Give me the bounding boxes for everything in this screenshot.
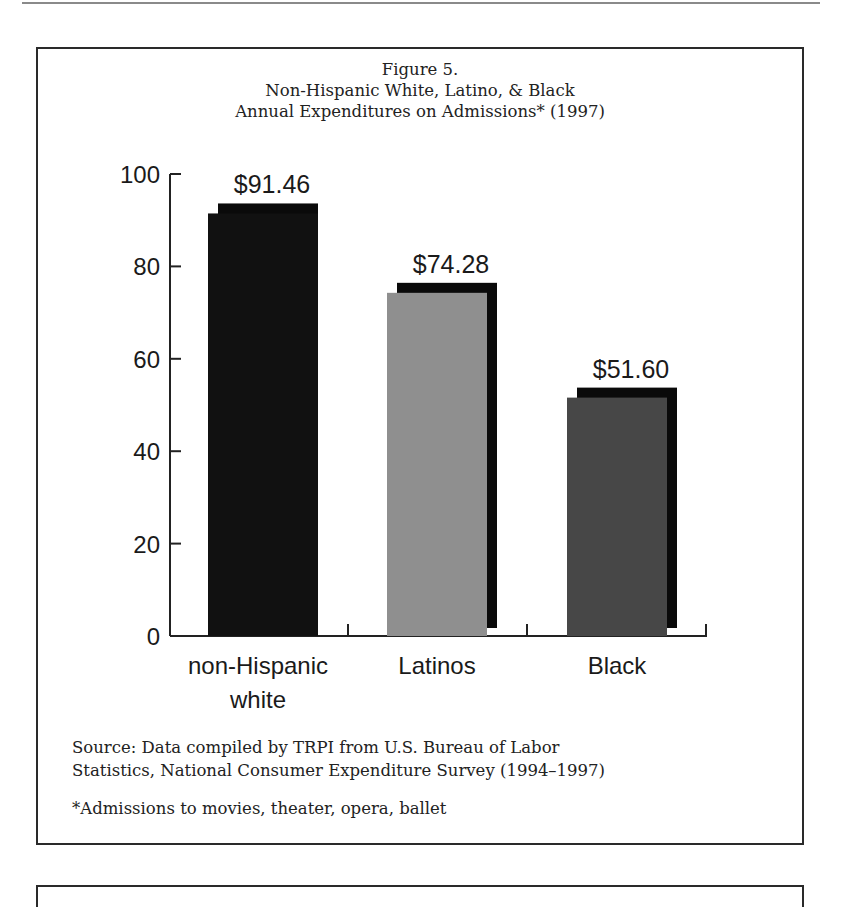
bar-non-hispanic-white — [208, 213, 318, 636]
value-label: $74.28 — [413, 250, 489, 278]
y-tick-label: 40 — [133, 438, 160, 465]
value-label: $51.60 — [593, 355, 669, 383]
footnote: *Admissions to movies, theater, opera, b… — [72, 797, 447, 820]
category-label: Latinos — [398, 652, 475, 679]
y-tick-label: 60 — [133, 346, 160, 373]
bar-latinos — [387, 293, 487, 636]
value-label: $91.46 — [234, 170, 310, 198]
y-tick-label: 0 — [147, 623, 160, 650]
y-tick-label: 80 — [133, 253, 160, 280]
source-line2: Statistics, National Consumer Expenditur… — [72, 759, 605, 782]
source-line1: Source: Data compiled by TRPI from U.S. … — [72, 736, 560, 759]
category-label: non-Hispanic — [188, 652, 328, 679]
y-tick-label: 100 — [120, 161, 160, 188]
bar-black — [567, 398, 667, 636]
y-tick-label: 20 — [133, 531, 160, 558]
category-label: Black — [588, 652, 648, 679]
category-label: white — [229, 686, 286, 713]
next-figure-frame — [36, 885, 804, 907]
